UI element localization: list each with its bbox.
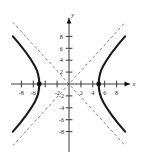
x-tick-label-4: 4 (91, 89, 94, 96)
x-tick-label-minus8: -8 (19, 89, 24, 96)
y-tick-label-minus8: -8 (59, 128, 64, 135)
x-axis-arrowhead (125, 82, 131, 87)
x-tick-label-group: -8 -6 -2 2 4 6 8 (19, 89, 118, 96)
hyperbola-figure: -8 -6 -2 2 4 6 8 8 6 4 2 -2 -4 -6 -8 x y (0, 0, 142, 162)
x-tick-label-2: 2 (80, 89, 83, 96)
vertex-dot-right (96, 82, 101, 87)
x-axis-label: x (132, 80, 136, 87)
x-tick-label-8: 8 (115, 89, 118, 96)
y-tick-label-minus4: -4 (59, 104, 64, 111)
y-axis-label: y (70, 11, 74, 18)
x-tick-label-6: 6 (103, 89, 106, 96)
y-tick-label-6: 6 (60, 45, 63, 52)
y-tick-label-minus2: -2 (59, 92, 64, 99)
y-tick-label-8: 8 (60, 33, 63, 40)
plot-canvas: -8 -6 -2 2 4 6 8 8 6 4 2 -2 -4 -6 -8 x y (0, 0, 142, 162)
x-tick-label-minus6: -6 (31, 89, 36, 96)
y-tick-label-minus6: -6 (59, 116, 64, 123)
y-tick-label-4: 4 (60, 56, 63, 63)
y-tick-label-2: 2 (60, 68, 63, 75)
y-axis-arrowhead (67, 18, 72, 24)
vertex-dot-left (37, 82, 42, 87)
